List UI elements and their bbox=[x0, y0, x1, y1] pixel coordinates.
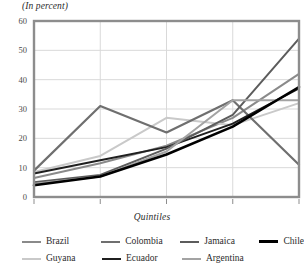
y-tick-label: 40 bbox=[19, 75, 28, 85]
unit-note: (In percent) bbox=[22, 1, 68, 11]
legend-item-ecuador[interactable]: Ecuador bbox=[102, 253, 182, 264]
legend-item-brazil[interactable]: Brazil bbox=[22, 236, 101, 247]
y-tick-label: 20 bbox=[19, 133, 28, 143]
x-tick-label: 3 bbox=[164, 206, 168, 208]
y-tick-label: 0 bbox=[23, 192, 27, 202]
legend-label: Argentina bbox=[206, 253, 244, 264]
legend-swatch-icon bbox=[180, 241, 199, 243]
legend-label: Brazil bbox=[46, 236, 69, 247]
legend-item-guyana[interactable]: Guyana bbox=[22, 253, 102, 264]
line-chart-svg: 0102030405060 12345 bbox=[0, 16, 304, 208]
legend-swatch-icon bbox=[259, 240, 278, 243]
x-tick-label: 5 bbox=[297, 206, 301, 208]
legend-swatch-icon bbox=[101, 241, 120, 243]
plot-area: 0102030405060 12345 bbox=[0, 16, 304, 208]
legend-swatch-icon bbox=[182, 258, 201, 260]
legend-label: Ecuador bbox=[126, 253, 158, 264]
y-tick-label: 10 bbox=[19, 163, 28, 173]
legend-swatch-icon bbox=[22, 241, 41, 243]
legend-label: Chile bbox=[283, 236, 304, 247]
legend-swatch-icon bbox=[22, 258, 41, 260]
legend-item-colombia[interactable]: Colombia bbox=[101, 236, 180, 247]
legend-label: Colombia bbox=[125, 236, 162, 247]
legend-row: BrazilColombiaJamaicaChile bbox=[0, 233, 304, 250]
legend-item-argentina[interactable]: Argentina bbox=[182, 253, 244, 264]
legend-swatch-icon bbox=[102, 258, 121, 260]
x-tick-labels: 12345 bbox=[32, 199, 301, 208]
y-tick-label: 50 bbox=[19, 45, 28, 55]
legend-row: GuyanaEcuadorArgentina bbox=[0, 250, 304, 267]
legend-label: Guyana bbox=[46, 253, 76, 264]
x-tick-label: 4 bbox=[231, 206, 236, 208]
x-tick-label: 2 bbox=[98, 206, 102, 208]
legend-item-jamaica[interactable]: Jamaica bbox=[180, 236, 259, 247]
chart-legend: BrazilColombiaJamaicaChileGuyanaEcuadorA… bbox=[0, 233, 304, 267]
legend-label: Jamaica bbox=[204, 236, 235, 247]
x-axis-title: Quintiles bbox=[0, 212, 304, 222]
legend-item-chile[interactable]: Chile bbox=[259, 236, 304, 247]
y-tick-label: 30 bbox=[19, 104, 28, 114]
y-tick-labels: 0102030405060 bbox=[19, 16, 28, 202]
chart-figure: (In percent) 0102030405060 12345 Quintil… bbox=[0, 0, 304, 274]
x-tick-label: 1 bbox=[32, 206, 36, 208]
y-tick-label: 60 bbox=[19, 16, 28, 26]
